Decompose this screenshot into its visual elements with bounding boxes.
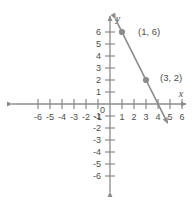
- point-label-1-6: (1, 6): [138, 26, 160, 37]
- point-marker-1-6: [119, 29, 125, 35]
- y-tick-label-3: 3: [96, 63, 101, 73]
- y-tick-label--4: -4: [93, 147, 101, 157]
- origin-label: 0: [100, 105, 105, 115]
- y-tick-label-6: 6: [96, 27, 101, 37]
- x-tick-label-1: 1: [119, 112, 124, 122]
- x-tick-label--4: -4: [58, 112, 66, 122]
- x-tick-label--3: -3: [70, 112, 78, 122]
- y-tick-label-1: 1: [96, 87, 101, 97]
- x-tick-label--5: -5: [46, 112, 54, 122]
- coordinate-plane-graph: -6 -5 -4 -3 -2 -1 1 2 3 4 5 6 6 5 4 3 2 …: [0, 0, 196, 206]
- graph-svg: -6 -5 -4 -3 -2 -1 1 2 3 4 5 6 6 5 4 3 2 …: [0, 0, 196, 206]
- y-tick-label--2: -2: [93, 123, 101, 133]
- x-tick-label-6: 6: [179, 112, 184, 122]
- x-tick-label-5: 5: [167, 112, 172, 122]
- marked-points-group: (1, 6) (3, 2): [119, 26, 182, 83]
- y-tick-label--6: -6: [93, 171, 101, 181]
- y-tick-label--3: -3: [93, 135, 101, 145]
- y-tick-label--5: -5: [93, 159, 101, 169]
- x-tick-label--2: -2: [82, 112, 90, 122]
- y-tick-label-5: 5: [96, 39, 101, 49]
- y-tick-label-4: 4: [96, 51, 101, 61]
- x-axis-label: x: [178, 88, 184, 99]
- x-tick-label--6: -6: [34, 112, 42, 122]
- x-tick-label-4: 4: [155, 112, 160, 122]
- x-tick-label-2: 2: [131, 112, 136, 122]
- y-tick-label-2: 2: [96, 75, 101, 85]
- x-tick-label-3: 3: [143, 112, 148, 122]
- point-marker-3-2: [143, 77, 149, 83]
- point-label-3-2: (3, 2): [160, 72, 182, 83]
